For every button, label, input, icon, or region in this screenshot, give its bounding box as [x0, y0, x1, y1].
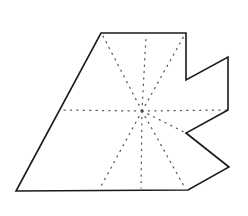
- geometry-figure: [0, 0, 248, 216]
- figure-container: [0, 0, 248, 216]
- kernel-center-point: [141, 110, 144, 113]
